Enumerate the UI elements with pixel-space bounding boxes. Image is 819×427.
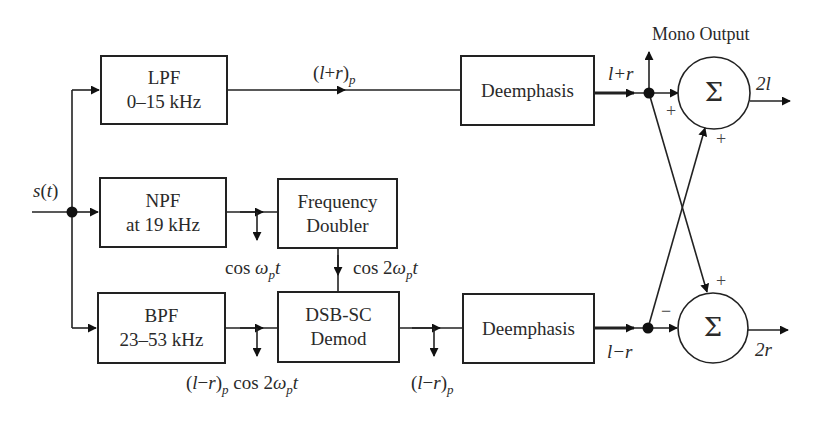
block-bpf-line2: 23–53 kHz — [120, 328, 204, 352]
block-frequency-doubler: Frequency Doubler — [277, 178, 398, 249]
block-doubler-line2: Doubler — [306, 214, 368, 238]
block-lpf: LPF 0–15 kHz — [100, 55, 228, 125]
block-demod-line1: DSB-SC — [305, 303, 372, 327]
signal-l-plus-r: l+r — [608, 64, 634, 84]
block-lpf-line1: LPF — [148, 66, 181, 90]
summer-bottom-sign-cross: + — [716, 272, 726, 290]
mono-output-label: Mono Output — [652, 24, 750, 44]
input-label: s(t) — [33, 181, 58, 201]
signal-carrier-cos-2wpt: cos 2ωpt — [353, 258, 418, 285]
block-npf-line1: NPF — [146, 189, 181, 213]
input-junction-dot — [67, 207, 78, 218]
block-doubler-line1: Frequency — [297, 190, 377, 214]
block-demod-line2: Demod — [311, 327, 367, 351]
signal-l-plus-r-p: (l+r)p — [313, 63, 356, 90]
junction-dot-bottom — [643, 323, 654, 334]
block-deemphasis-bottom-label: Deemphasis — [482, 317, 575, 341]
output-2l-label: 2l — [756, 74, 771, 94]
block-bpf-line1: BPF — [145, 304, 179, 328]
junction-dot-top — [644, 88, 655, 99]
summer-bottom-sign-direct: − — [661, 302, 671, 320]
cross-line-top-to-bottom — [649, 93, 707, 292]
output-2r-label: 2r — [755, 340, 772, 360]
block-npf-line2: at 19 kHz — [126, 213, 200, 237]
block-dsb-sc-demod: DSB-SC Demod — [277, 291, 400, 363]
signal-l-minus-r-modulated: (l−r)p cos 2ωpt — [186, 373, 298, 400]
summer-bottom-symbol: Σ — [698, 312, 728, 342]
signal-pilot-cos-wpt: cos ωpt — [225, 258, 280, 285]
block-bpf: BPF 23–53 kHz — [97, 292, 226, 364]
signal-l-minus-r-p: (l−r)p — [411, 373, 454, 400]
block-lpf-line2: 0–15 kHz — [127, 90, 201, 114]
block-deemphasis-bottom: Deemphasis — [462, 293, 595, 364]
input-label-arg: t — [47, 180, 52, 201]
signal-l-minus-r: l−r — [607, 342, 633, 362]
summer-top-sign-direct: + — [666, 102, 676, 120]
input-label-fn: s — [33, 180, 40, 201]
summer-top-symbol: Σ — [699, 77, 729, 107]
summer-top-sign-cross: + — [716, 130, 726, 148]
block-npf: NPF at 19 kHz — [99, 177, 227, 248]
block-deemphasis-top: Deemphasis — [460, 55, 595, 126]
block-deemphasis-top-label: Deemphasis — [481, 79, 574, 103]
